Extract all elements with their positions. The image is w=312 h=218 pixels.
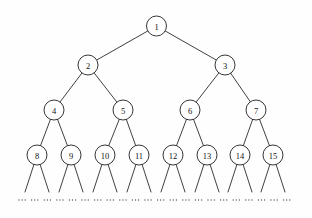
ellipsis-group	[94, 199, 102, 200]
tree-edge	[60, 73, 82, 102]
ellipsis-dot	[245, 199, 246, 200]
ellipsis-dot	[122, 199, 123, 200]
tree-canvas: 123456789101112131415	[0, 0, 312, 218]
ellipsis-dot	[273, 199, 274, 200]
ellipsis-dot	[198, 199, 199, 200]
ellipsis-dot	[119, 199, 120, 200]
leaf-stub-edges-layer	[25, 165, 285, 192]
tree-node[interactable]: 12	[163, 145, 183, 165]
ellipsis-group	[44, 199, 52, 200]
tree-edge	[196, 73, 219, 102]
ellipsis-dot	[50, 199, 51, 200]
leaf-stub-edge	[93, 165, 102, 192]
ellipsis-dot	[107, 199, 108, 200]
tree-edge	[177, 119, 187, 145]
ellipsis-group	[18, 199, 26, 200]
ellipsis-dot	[72, 199, 73, 200]
ellipsis-dot	[37, 199, 38, 200]
tree-edge	[243, 119, 252, 145]
ellipsis-group	[170, 199, 178, 200]
ellipsis-dot	[110, 199, 111, 200]
leaf-stub-edge	[210, 165, 219, 192]
leaf-stub-edge	[243, 165, 252, 192]
tree-edge	[58, 119, 68, 145]
tree-node[interactable]: 3	[215, 55, 235, 75]
ellipsis-dot	[289, 199, 290, 200]
ellipsis-group	[283, 199, 290, 200]
ellipsis-dot	[214, 199, 215, 200]
ellipsis-group	[107, 199, 115, 200]
ellipsis-dot	[34, 199, 35, 200]
tree-node[interactable]: 7	[246, 100, 266, 120]
ellipsis-group	[182, 199, 190, 200]
tree-node[interactable]: 1	[147, 16, 167, 36]
ellipsis-dot	[248, 199, 249, 200]
ellipsis-dot	[210, 199, 211, 200]
tree-edge	[41, 119, 51, 145]
leaf-stub-edge	[25, 165, 34, 192]
leaf-stub-edge	[161, 165, 170, 192]
tree-node[interactable]: 13	[197, 145, 217, 165]
ellipsis-dot	[264, 199, 265, 200]
node-label: 12	[169, 151, 178, 161]
tree-node[interactable]: 11	[129, 145, 149, 165]
tree-node[interactable]: 6	[180, 100, 200, 120]
tree-edge	[231, 73, 251, 102]
tree-node[interactable]: 2	[78, 55, 98, 75]
node-label: 9	[69, 151, 73, 161]
tree-node[interactable]: 9	[61, 145, 81, 165]
leaf-stub-edge	[74, 165, 83, 192]
ellipsis-group	[56, 199, 64, 200]
node-label: 10	[101, 151, 110, 161]
ellipsis-row	[18, 199, 290, 200]
ellipsis-group	[270, 199, 278, 200]
node-label: 15	[269, 151, 278, 161]
ellipsis-dot	[163, 199, 164, 200]
ellipsis-group	[31, 199, 38, 200]
leaf-stub-edge	[276, 165, 285, 192]
ellipsis-dot	[220, 199, 221, 200]
ellipsis-dot	[88, 199, 89, 200]
tree-node[interactable]: 5	[113, 100, 133, 120]
node-label: 6	[188, 106, 192, 116]
tree-edge	[260, 119, 270, 145]
ellipsis-group	[157, 199, 165, 200]
tree-edge	[194, 119, 204, 145]
ellipsis-dot	[170, 199, 171, 200]
ellipsis-dot	[258, 199, 259, 200]
node-label: 3	[223, 61, 227, 71]
leaf-stub-edge	[40, 165, 49, 192]
node-label: 8	[35, 151, 39, 161]
ellipsis-dot	[113, 199, 114, 200]
tree-node[interactable]: 8	[27, 145, 47, 165]
tree-node[interactable]: 15	[263, 145, 283, 165]
tree-node[interactable]: 4	[44, 100, 64, 120]
ellipsis-dot	[125, 199, 126, 200]
tree-edge	[165, 31, 216, 60]
leaf-stub-edge	[142, 165, 151, 192]
ellipsis-dot	[195, 199, 196, 200]
ellipsis-dot	[233, 199, 234, 200]
ellipsis-dot	[261, 199, 262, 200]
ellipsis-dot	[151, 199, 152, 200]
tree-edge	[109, 119, 120, 145]
ellipsis-dot	[25, 199, 26, 200]
ellipsis-dot	[251, 199, 252, 200]
leaf-stub-edge	[59, 165, 68, 192]
node-label: 5	[121, 106, 125, 116]
tree-node[interactable]: 10	[95, 145, 115, 165]
binary-tree-diagram: 123456789101112131415	[0, 0, 312, 218]
tree-node[interactable]: 14	[230, 145, 250, 165]
ellipsis-group	[119, 199, 127, 200]
ellipsis-dot	[135, 199, 136, 200]
ellipsis-dot	[84, 199, 85, 200]
ellipsis-dot	[236, 199, 237, 200]
ellipsis-dot	[157, 199, 158, 200]
ellipsis-dot	[59, 199, 60, 200]
ellipsis-group	[207, 199, 215, 200]
ellipsis-dot	[182, 199, 183, 200]
ellipsis-dot	[185, 199, 186, 200]
leaf-stub-edge	[108, 165, 117, 192]
ellipsis-dot	[97, 199, 98, 200]
node-label: 2	[86, 61, 90, 71]
